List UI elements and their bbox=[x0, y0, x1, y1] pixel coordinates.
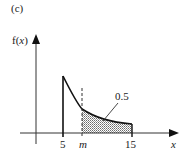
y-axis-arrow-icon bbox=[32, 34, 40, 44]
density-diagram: (c) f(x) 5 m 15 x 0.5 bbox=[0, 0, 190, 159]
x-tick-label-m: m bbox=[79, 139, 87, 150]
panel-label: (c) bbox=[11, 3, 23, 14]
x-tick-label-15: 15 bbox=[125, 139, 136, 150]
x-axis-arrow-icon bbox=[169, 129, 179, 137]
y-axis-label-suffix: ) bbox=[24, 34, 28, 46]
x-axis-label: x bbox=[171, 139, 176, 150]
area-label-leader-line bbox=[103, 103, 118, 121]
x-tick-label-5: 5 bbox=[60, 139, 66, 150]
diagram-canvas bbox=[0, 0, 190, 159]
shaded-area-label: 0.5 bbox=[115, 91, 129, 102]
y-axis-label: f(x) bbox=[12, 35, 28, 46]
